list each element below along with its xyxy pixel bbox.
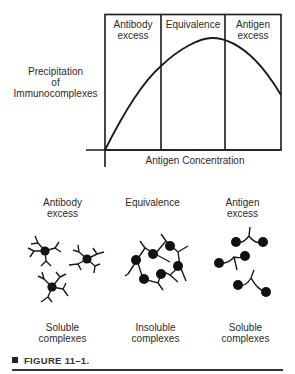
column-title-antibody-excess: Antibody excess	[30, 197, 95, 219]
column-caption-antigen-excess: Soluble complexes	[213, 322, 278, 344]
region-label-line: excess	[105, 30, 161, 41]
y-axis-label-line: Immunocomplexes	[8, 88, 103, 99]
precipitation-curve	[105, 38, 281, 150]
region-label-line: excess	[225, 30, 281, 41]
column-caption-line: Insoluble	[123, 322, 188, 333]
region-label-line: Antibody	[105, 19, 161, 30]
column-caption-line: Soluble	[30, 322, 95, 333]
figure-caption: FIGURE 11–1.	[12, 355, 89, 366]
region-label-line: Antigen	[225, 19, 281, 30]
precipitation-curve-graph	[0, 0, 295, 374]
column-caption-equivalence: Insoluble complexes	[123, 322, 188, 344]
column-title-line: excess	[30, 208, 95, 219]
column-title-line: excess	[215, 208, 270, 219]
column-title-antigen-excess: Antigen excess	[215, 197, 270, 219]
bullet-square-icon	[12, 357, 18, 363]
column-caption-line: Soluble	[213, 322, 278, 333]
region-label-equivalence: Equivalence	[161, 19, 225, 30]
column-title-line: Antibody	[30, 197, 95, 208]
x-axis-label: Antigen Concentration	[130, 155, 260, 166]
column-caption-line: complexes	[213, 333, 278, 344]
figure-caption-text: FIGURE 11–1.	[24, 355, 89, 366]
region-label-line: Equivalence	[161, 19, 225, 30]
region-label-antibody-excess: Antibody excess	[105, 19, 161, 41]
y-axis-label: Precipitation of Immunocomplexes	[8, 66, 103, 99]
antibody-excess-complexes	[28, 236, 104, 302]
column-title-line: Antigen	[215, 197, 270, 208]
figure-bottom-rule	[12, 369, 283, 371]
equivalence-lattice	[125, 234, 188, 290]
y-axis-label-line: Precipitation	[8, 66, 103, 77]
column-title-line: Equivalence	[120, 197, 185, 208]
column-caption-antibody-excess: Soluble complexes	[30, 322, 95, 344]
region-label-antigen-excess: Antigen excess	[225, 19, 281, 41]
column-caption-line: complexes	[30, 333, 95, 344]
y-axis-label-line: of	[8, 77, 103, 88]
column-caption-line: complexes	[123, 333, 188, 344]
antigen-excess-complexes	[214, 227, 271, 297]
column-title-equivalence: Equivalence	[120, 197, 185, 208]
